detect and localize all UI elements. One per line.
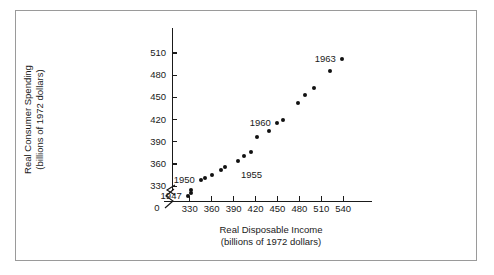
y-axis-label: Real Consumer Spending (billions of 1972… [22,35,45,205]
x-axis-label: Real Disposable Income (billions of 1972… [176,224,366,247]
data-point [275,121,279,125]
x-tick [277,196,278,201]
y-tick [172,141,177,142]
data-point [312,86,316,90]
x-axis-break-icon [160,188,184,214]
data-point [210,173,214,177]
x-tick [255,196,256,201]
data-point [303,93,307,97]
data-point [255,135,259,139]
data-point [267,129,271,133]
data-point [296,101,300,105]
data-point [199,178,203,182]
data-point [242,154,246,158]
y-tick-label: 360 [136,159,166,169]
y-tick-label: 510 [136,48,166,58]
y-axis-label-sub: (billions of 1972 dollars) [33,69,44,169]
y-tick [172,97,177,98]
data-point [223,165,227,169]
y-tick-label: 480 [136,70,166,80]
x-tick [299,196,300,201]
x-tick [233,196,234,201]
x-tick-label: 540 [330,204,356,214]
figure-container: Real Consumer Spending (billions of 1972… [0,0,494,275]
data-point [219,168,223,172]
data-point [328,69,332,73]
x-tick [321,196,322,201]
data-point [340,57,344,61]
x-tick [211,196,212,201]
data-point [236,159,240,163]
y-tick [172,75,177,76]
x-axis-label-sub: (billions of 1972 dollars) [221,236,321,247]
x-axis-label-main: Real Disposable Income [220,224,323,235]
scatter-plot: Real Consumer Spending (billions of 1972… [0,0,494,275]
y-axis-label-main: Real Consumer Spending [22,65,33,174]
y-tick-label: 390 [136,137,166,147]
y-tick [172,163,177,164]
year-annotation: 1955 [241,170,262,180]
data-point [249,150,253,154]
data-point [203,176,207,180]
y-tick [172,52,177,53]
y-tick-label: 450 [136,92,166,102]
y-tick [172,119,177,120]
x-tick [343,196,344,201]
year-annotation: 1963 [315,54,336,64]
data-point [281,118,285,122]
y-tick-label: 420 [136,115,166,125]
year-annotation: 1960 [250,118,271,128]
